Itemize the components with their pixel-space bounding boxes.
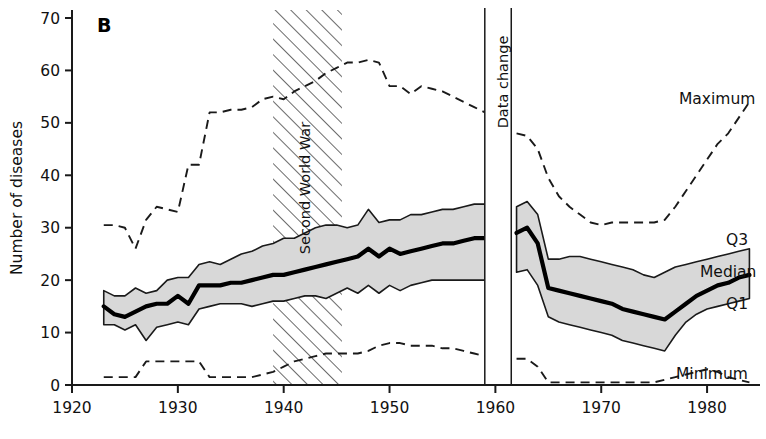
y-tick-label: 30	[40, 219, 60, 237]
chart-svg: 0102030405060701920193019401950196019701…	[0, 0, 766, 439]
minimum-series-label: Minimum	[676, 365, 748, 383]
x-tick-label: 1940	[264, 399, 303, 417]
y-axis-title: Number of diseases	[8, 121, 26, 275]
x-tick-label: 1980	[687, 399, 726, 417]
maximum-series-label: Maximum	[679, 90, 755, 108]
data-change-label: Data change	[495, 36, 511, 129]
y-tick-label: 70	[40, 10, 60, 28]
x-tick-label: 1970	[582, 399, 621, 417]
chart-figure: 0102030405060701920193019401950196019701…	[0, 0, 766, 439]
y-tick-label: 20	[40, 272, 60, 290]
x-tick-label: 1950	[370, 399, 409, 417]
x-tick-label: 1920	[52, 399, 91, 417]
y-tick-label: 0	[50, 377, 60, 395]
x-tick-label: 1930	[158, 399, 197, 417]
y-tick-label: 60	[40, 62, 60, 80]
q3-series-label: Q3	[726, 231, 748, 249]
second-world-war-label: Second World War	[297, 122, 313, 254]
y-tick-label: 40	[40, 167, 60, 185]
median-series-label: Median	[700, 263, 756, 281]
chart-background	[0, 0, 766, 439]
q1-series-label: Q1	[726, 295, 748, 313]
y-tick-label: 10	[40, 324, 60, 342]
y-tick-label: 50	[40, 114, 60, 132]
panel-letter: B	[97, 14, 111, 36]
x-tick-label: 1960	[476, 399, 515, 417]
